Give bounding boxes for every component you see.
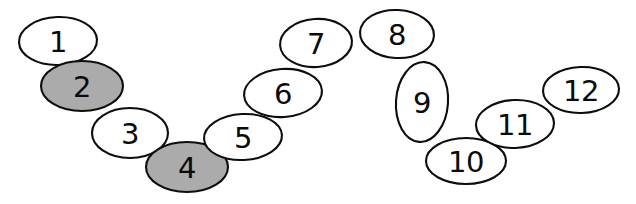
ellipse-label-7: 7 — [307, 27, 325, 61]
ellipse-label-3: 3 — [121, 117, 139, 151]
ellipse-label-10: 10 — [448, 145, 484, 179]
ellipse-chain-diagram: 123456789101112 — [0, 0, 636, 204]
diagram-canvas: 123456789101112 — [0, 0, 636, 204]
ellipse-label-9: 9 — [413, 86, 431, 120]
ellipse-label-6: 6 — [274, 77, 292, 111]
ellipse-label-11: 11 — [497, 108, 533, 142]
ellipse-label-1: 1 — [49, 25, 67, 59]
ellipse-label-8: 8 — [388, 18, 406, 52]
ellipse-label-4: 4 — [178, 151, 196, 185]
ellipse-label-2: 2 — [73, 70, 91, 104]
ellipse-label-5: 5 — [234, 121, 252, 155]
ellipse-node-2[interactable]: 2 — [41, 61, 123, 111]
ellipse-label-12: 12 — [563, 74, 599, 108]
